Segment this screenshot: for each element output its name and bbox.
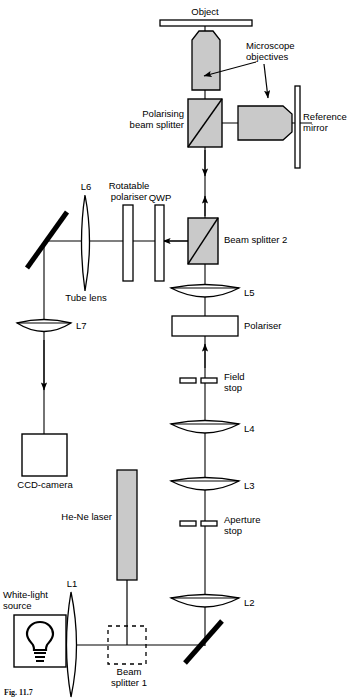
label-field-stop: Field stop [224, 371, 268, 393]
label-object: Object [176, 6, 234, 17]
label-he-ne-laser: He-Ne laser [44, 511, 112, 522]
label-polarising-beam-splitter: Polarising beam splitter [96, 108, 184, 130]
label-l5: L5 [244, 287, 270, 298]
fold-mirror-upper [27, 212, 67, 268]
label-white-light-source: White-light source [3, 589, 65, 611]
polariser-plate [172, 316, 238, 336]
figure-caption: Fig. 11.7 [4, 688, 334, 700]
aperture-stop [180, 521, 217, 526]
field-stop [180, 378, 217, 383]
label-reference-mirror: Reference mirror [303, 111, 337, 133]
label-aperture-stop: Aperture stop [224, 514, 278, 536]
label-ccd-camera: CCD-camera [8, 479, 82, 490]
objective-horizontal [238, 106, 292, 140]
ccd-camera [22, 434, 67, 476]
objective-vertical [192, 31, 220, 90]
label-polariser: Polariser [244, 320, 304, 331]
object-sample [160, 20, 252, 26]
beam-splitter-2 [188, 218, 218, 264]
label-l6: L6 [70, 181, 102, 192]
label-qwp: QWP [142, 192, 178, 203]
figure-number: Fig. 11.7 [4, 688, 33, 697]
l6-tube-lens [82, 195, 90, 291]
l3-lens [171, 478, 239, 491]
label-tube-lens: Tube lens [52, 292, 120, 303]
white-light-source [14, 615, 66, 667]
qwp-waveplate [155, 205, 164, 281]
label-l4: L4 [244, 423, 270, 434]
l4-lens [171, 421, 239, 434]
label-beam-splitter-1: Beam splitter 1 [100, 666, 158, 688]
label-l1: L1 [58, 578, 86, 589]
reference-mirror [295, 86, 300, 168]
l7-lens [17, 320, 71, 332]
l2-lens [171, 595, 239, 608]
polarising-beam-splitter [188, 99, 222, 147]
label-beam-splitter-2: Beam splitter 2 [224, 234, 324, 245]
he-ne-laser [117, 470, 137, 645]
label-l2: L2 [244, 597, 270, 608]
rotatable-polariser [123, 205, 133, 281]
label-l7: L7 [76, 320, 102, 331]
label-microscope-objectives: Microscope objectives [246, 40, 326, 62]
label-l3: L3 [244, 480, 270, 491]
fold-mirror-lower [185, 621, 222, 663]
l5-lens [171, 285, 239, 298]
l1-lens [67, 592, 77, 697]
